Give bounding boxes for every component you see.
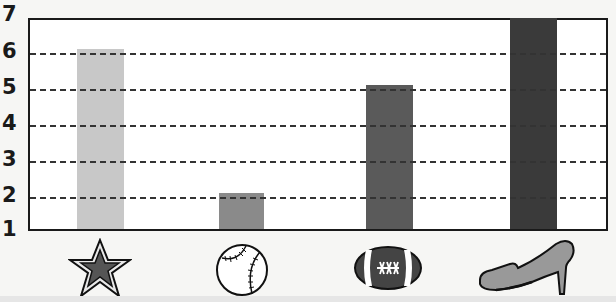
baseball-icon: [210, 238, 274, 298]
y-tick: 7: [2, 4, 24, 25]
y-tick: 3: [2, 149, 24, 170]
y-tick: 6: [2, 41, 24, 62]
gridline-6: [30, 53, 606, 55]
bar-star: [77, 49, 124, 229]
y-tick: 5: [2, 77, 24, 98]
y-tick: 1: [2, 219, 24, 240]
gridline-5: [30, 89, 606, 91]
football-icon: [352, 238, 424, 298]
plot-area: [28, 18, 608, 231]
star-icon: [68, 238, 132, 298]
shoe-icon: [476, 238, 580, 298]
gridline-2: [30, 197, 606, 199]
bottom-band: [0, 296, 616, 302]
bar-football: [366, 85, 413, 229]
y-tick: 4: [2, 113, 24, 134]
gridline-4: [30, 125, 606, 127]
gridline-3: [30, 161, 606, 163]
y-tick: 2: [2, 185, 24, 206]
